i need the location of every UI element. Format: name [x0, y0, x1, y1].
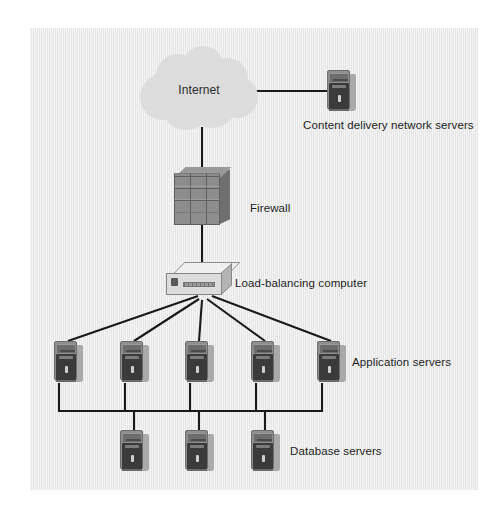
application-server-icon	[185, 341, 215, 382]
link-lb-app-2	[134, 299, 199, 341]
application-server-icon	[120, 341, 150, 382]
cdn-server-icon	[327, 70, 357, 111]
database-server-icon	[251, 430, 281, 471]
application-server-icon	[54, 341, 84, 382]
cdn-label: Content delivery network servers	[303, 120, 474, 132]
application-server-icon	[317, 341, 347, 382]
internet-label: Internet	[138, 84, 260, 96]
firewall-icon	[172, 163, 238, 235]
application-server-icon	[251, 341, 281, 382]
database-server-icon	[120, 430, 150, 471]
load-balancer-label: Load-balancing computer	[235, 278, 367, 290]
application-servers-label: Application servers	[352, 357, 451, 369]
load-balancer-icon	[166, 262, 240, 304]
firewall-label: Firewall	[250, 203, 290, 215]
database-server-icon	[185, 430, 215, 471]
database-servers-label: Database servers	[290, 446, 382, 458]
link-lb-app-3	[199, 300, 202, 341]
